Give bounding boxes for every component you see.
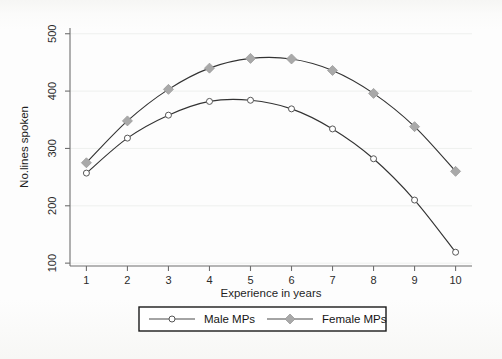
data-point-marker [371, 156, 377, 162]
data-series-layer [81, 53, 460, 255]
x-tick-label: 8 [370, 274, 376, 286]
y-axis-ticks: 100200300400500 [46, 25, 70, 273]
x-tick-label: 7 [329, 274, 335, 286]
y-tick-label: 500 [46, 25, 58, 43]
x-tick-label: 4 [206, 274, 212, 286]
legend-marker [169, 316, 175, 322]
data-point-marker [330, 126, 336, 132]
series-line-male-mps [86, 99, 455, 252]
data-point-marker [287, 54, 297, 64]
data-point-marker [163, 84, 173, 94]
x-tick-label: 10 [449, 274, 461, 286]
data-point-marker [369, 88, 379, 98]
y-tick-label: 200 [46, 197, 58, 215]
data-point-marker [204, 63, 214, 73]
y-tick-label: 300 [46, 139, 58, 157]
y-tick-label: 400 [46, 82, 58, 100]
data-point-marker [412, 197, 418, 203]
legend-label[interactable]: Male MPs [204, 313, 255, 325]
x-axis-title: Experience in years [221, 287, 322, 299]
x-tick-label: 1 [83, 274, 89, 286]
chart-legend[interactable]: Male MPsFemale MPs [139, 307, 387, 331]
data-point-marker [124, 135, 130, 141]
data-point-marker [83, 170, 89, 176]
legend-label[interactable]: Female MPs [322, 313, 387, 325]
x-tick-label: 9 [412, 274, 418, 286]
line-chart-canvas: 100200300400500 12345678910 No.lines spo… [0, 0, 502, 359]
series-line-female-mps [86, 57, 455, 171]
data-point-marker [453, 249, 459, 255]
gridlines [70, 34, 472, 263]
data-point-marker [165, 112, 171, 118]
chart-figure: 100200300400500 12345678910 No.lines spo… [0, 0, 502, 359]
data-point-marker [328, 65, 338, 75]
x-tick-label: 2 [124, 274, 130, 286]
data-point-marker [245, 53, 255, 63]
y-tick-label: 100 [46, 254, 58, 272]
x-tick-label: 3 [165, 274, 171, 286]
data-point-marker [289, 106, 295, 112]
x-tick-label: 6 [288, 274, 294, 286]
y-axis-title: No.lines spoken [18, 106, 30, 188]
data-point-marker [206, 98, 212, 104]
data-point-marker [247, 97, 253, 103]
x-tick-label: 5 [247, 274, 253, 286]
x-axis-ticks: 12345678910 [83, 266, 461, 286]
